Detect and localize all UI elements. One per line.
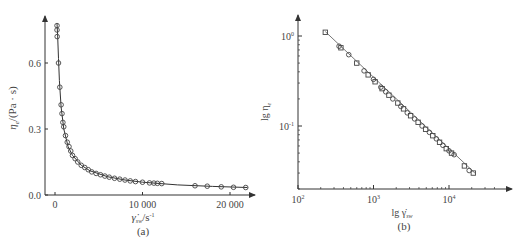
y-tick-label: 0.3 <box>29 124 42 135</box>
panel-b-chart: 102103104 10010-1 lg ηe lg γ̇sw (b) <box>259 15 512 233</box>
data-point-marker <box>390 97 395 102</box>
data-point-marker <box>379 85 384 90</box>
panel-b-x-ticks: 102103104 <box>292 185 495 205</box>
panel-a-fit-line <box>57 23 248 187</box>
y-tick-label: 0.0 <box>29 190 42 201</box>
x-tick-label: 20 000 <box>216 199 244 210</box>
x-tick-label: 102 <box>292 194 305 205</box>
panel-a-x-label: γ̇sw/s-1 <box>131 211 154 224</box>
figure: 010 00020 000 0.00.30.6 ηe/(Pa · s) γ̇sw… <box>0 0 516 245</box>
x-tick-label: 0 <box>53 199 58 210</box>
x-tick-label: 10 000 <box>129 199 157 210</box>
panel-a-data-points <box>55 23 248 190</box>
panel-a-y-label: ηe/(Pa · s) <box>6 86 21 130</box>
panel-b-y-label: lg ηe <box>259 103 272 122</box>
panel-b-x-label: lg γ̇sw <box>391 207 412 219</box>
x-tick-label: 104 <box>443 194 456 205</box>
y-tick-label: 10-1 <box>279 121 294 132</box>
y-tick-label: 100 <box>281 31 294 42</box>
y-tick-label: 0.6 <box>29 58 42 69</box>
panel-a-chart: 010 00020 000 0.00.30.6 ηe/(Pa · s) γ̇sw… <box>6 16 255 238</box>
data-point-marker <box>405 111 410 116</box>
panel-a-caption: (a) <box>137 225 150 238</box>
panel-b-y-ticks: 10010-1 <box>279 31 302 189</box>
panel-b-caption: (b) <box>398 220 411 233</box>
data-point-marker <box>323 30 327 34</box>
x-tick-label: 103 <box>367 194 380 205</box>
data-point-marker <box>346 52 351 57</box>
panel-b-data-points <box>323 30 475 175</box>
